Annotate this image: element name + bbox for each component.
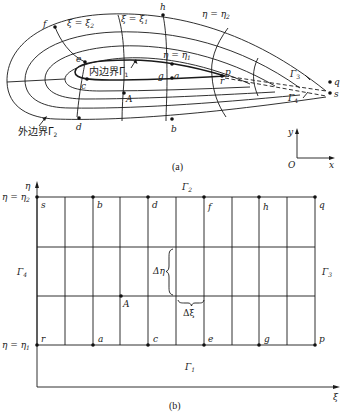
label-c: c [81, 81, 86, 91]
xy-axes: y O x [287, 127, 335, 170]
label-y: y [287, 127, 294, 137]
arrow-gamma3 [305, 75, 310, 80]
point-h [161, 13, 165, 17]
label-r: r [220, 76, 225, 86]
xi-axis-arrow [333, 385, 340, 389]
point-c [146, 343, 150, 347]
point-r [35, 343, 39, 347]
label-d: d [76, 122, 82, 132]
brace-delta-eta [166, 249, 173, 295]
computational-domain: η ξ s b d [2, 181, 340, 412]
label-delta-eta: Δη [152, 266, 165, 276]
point-e [83, 60, 87, 64]
point-d [146, 195, 150, 199]
label-outer-boundary: 外边界Γ2 [18, 126, 58, 138]
label-eta-outer: η = η2 [202, 9, 230, 20]
label-eta-bottom: η = η1 [2, 340, 30, 351]
label-d: d [152, 200, 158, 210]
point-A [119, 294, 123, 298]
label-eta-top: η = η2 [2, 192, 30, 203]
label-e: e [76, 54, 81, 64]
label-x: x [329, 160, 334, 170]
point-e [202, 343, 206, 347]
label-origin: O [288, 160, 296, 170]
point-eta1 [170, 62, 174, 66]
point-b [170, 117, 174, 121]
eta-curve-4 [25, 32, 300, 108]
label-eta-axis: η [25, 181, 31, 191]
label-q: q [319, 200, 325, 210]
label-A: A [122, 299, 130, 309]
label-delta-xi: Δξ [183, 308, 194, 318]
point-p [313, 343, 317, 347]
label-g: g [158, 71, 164, 81]
y-axis-arrow [295, 128, 299, 134]
label-gamma2: Γ2 [181, 182, 192, 193]
label-h: h [263, 202, 269, 212]
label-e: e [208, 334, 213, 344]
label-q: q [334, 77, 340, 87]
label-c: c [153, 334, 158, 344]
label-f: f [207, 202, 213, 212]
label-s: s [41, 200, 46, 210]
label-h: h [160, 2, 166, 12]
physical-domain: f h e c g a p r q s A d b ξ = ξ2 ξ = ξ1 … [7, 2, 340, 173]
point-d [77, 116, 81, 120]
xi-line-left-edge [7, 79, 65, 82]
label-a: a [174, 71, 179, 81]
caption-a: (a) [172, 161, 183, 173]
label-xi-left: ξ = ξ2 [67, 18, 94, 29]
point-s [35, 195, 39, 199]
label-r: r [41, 334, 46, 344]
label-xi-right: ξ = ξ1 [121, 14, 148, 25]
caption-b: (b) [169, 400, 181, 412]
label-inner-boundary: 内边界Γ1 [89, 65, 129, 78]
label-gamma4: Γ4 [16, 267, 27, 278]
label-a: a [98, 334, 103, 344]
label-gamma1: Γ1 [184, 362, 195, 373]
figure-canvas: f h e c g a p r q s A d b ξ = ξ2 ξ = ξ1 … [0, 0, 347, 417]
label-xi-axis: ξ [333, 392, 339, 402]
label-b: b [171, 124, 177, 134]
point-q [328, 80, 332, 84]
label-eta-inner: η = η1 [163, 50, 191, 61]
arrow-gamma4 [303, 92, 308, 98]
point-f [53, 25, 57, 29]
label-s: s [334, 89, 339, 99]
point-s [328, 91, 332, 95]
point-q [313, 195, 317, 199]
wake-cut-upper [225, 76, 326, 91]
label-b: b [97, 200, 103, 210]
point-f [202, 195, 206, 199]
point-a [91, 343, 95, 347]
point-b [91, 195, 95, 199]
point-h [257, 195, 261, 199]
label-g: g [264, 334, 270, 344]
label-A: A [125, 94, 133, 104]
xi-line-tail [254, 58, 259, 96]
label-p: p [225, 67, 231, 77]
label-gamma3: Γ3 [321, 267, 332, 278]
label-gamma4: Γ4 [287, 93, 298, 104]
point-g [257, 343, 261, 347]
brace-delta-xi [178, 300, 204, 306]
eta-axis-arrow [35, 181, 39, 188]
label-p: p [319, 334, 325, 344]
